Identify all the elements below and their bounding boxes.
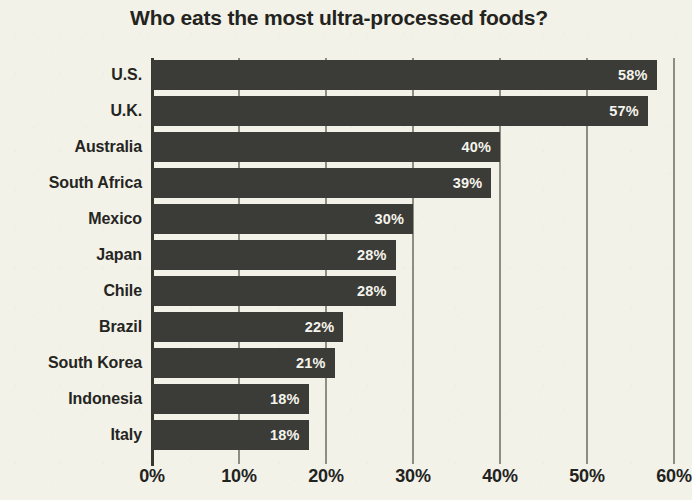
x-tick-label: 50% [569, 466, 604, 487]
bar-value-label: 21% [296, 356, 335, 371]
bar-value-label: 18% [270, 428, 309, 443]
bar-value-label: 30% [374, 212, 413, 227]
category-label: Italy [8, 420, 152, 450]
bar-row: 28% [152, 240, 674, 270]
category-label: U.S. [8, 60, 152, 90]
bar-row: 22% [152, 312, 674, 342]
bar[interactable]: 58% [152, 60, 657, 90]
bar[interactable]: 18% [152, 384, 309, 414]
x-tick-label: 20% [308, 466, 343, 487]
category-label: South Africa [8, 168, 152, 198]
category-axis-labels: U.S.U.K.AustraliaSouth AfricaMexicoJapan… [0, 60, 152, 456]
bar-row: 30% [152, 204, 674, 234]
category-label: Chile [8, 276, 152, 306]
bar-value-label: 22% [305, 320, 344, 335]
category-label: Indonesia [8, 384, 152, 414]
bar-row: 58% [152, 60, 674, 90]
bar[interactable]: 39% [152, 168, 491, 198]
bar[interactable]: 22% [152, 312, 343, 342]
x-tick-label: 30% [395, 466, 430, 487]
x-tick-label: 60% [656, 466, 691, 487]
bar-row: 57% [152, 96, 674, 126]
x-tick-label: 10% [221, 466, 256, 487]
bar-row: 28% [152, 276, 674, 306]
category-label: Mexico [8, 204, 152, 234]
category-label: Japan [8, 240, 152, 270]
bar-row: 18% [152, 384, 674, 414]
bar-row: 39% [152, 168, 674, 198]
bar-value-label: 58% [618, 68, 657, 83]
bar[interactable]: 21% [152, 348, 335, 378]
category-label: South Korea [8, 348, 152, 378]
bar-value-label: 57% [609, 104, 648, 119]
bar-value-label: 28% [357, 248, 396, 263]
category-label: Brazil [8, 312, 152, 342]
bar-value-label: 18% [270, 392, 309, 407]
bar-value-label: 39% [453, 176, 492, 191]
x-tick-label: 40% [482, 466, 517, 487]
bar-row: 21% [152, 348, 674, 378]
bar-row: 40% [152, 132, 674, 162]
bar-row: 18% [152, 420, 674, 450]
bar[interactable]: 28% [152, 276, 396, 306]
category-label: U.K. [8, 96, 152, 126]
category-label: Australia [8, 132, 152, 162]
bar[interactable]: 30% [152, 204, 413, 234]
x-tick-label: 0% [139, 466, 165, 487]
bar[interactable]: 28% [152, 240, 396, 270]
page-title: Who eats the most ultra-processed foods? [0, 6, 692, 30]
chart-page: Who eats the most ultra-processed foods?… [0, 0, 692, 500]
bar[interactable]: 18% [152, 420, 309, 450]
plot-area: 58%57%40%39%30%28%28%22%21%18%18% [152, 60, 674, 456]
bar[interactable]: 57% [152, 96, 648, 126]
bar-value-label: 40% [461, 140, 500, 155]
bar[interactable]: 40% [152, 132, 500, 162]
bar-value-label: 28% [357, 284, 396, 299]
